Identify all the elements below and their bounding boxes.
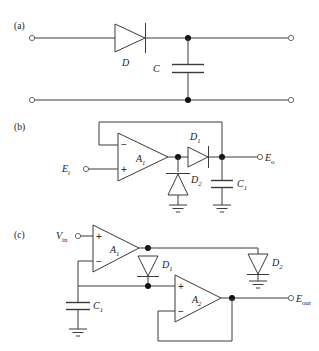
diode-D2[interactable] (166, 157, 190, 205)
panel-b-label: (b) (14, 122, 25, 133)
capacitor-C[interactable] (172, 38, 204, 100)
terminal-b-output[interactable] (257, 154, 262, 159)
opamp-c-A1-noninverting-sign: + (96, 231, 102, 242)
terminal-b-input-label: Ei (61, 163, 70, 176)
terminal-a-input-top[interactable] (29, 35, 34, 40)
node-a-bottom (185, 97, 191, 103)
terminal-c-output[interactable] (288, 295, 293, 300)
terminal-b-output-label: Eo (264, 152, 275, 165)
terminal-c-input[interactable] (75, 233, 80, 238)
diode-D2-body (168, 174, 188, 195)
diode-D2-label: D2 (190, 174, 202, 187)
opamp-c-A1-inverting-sign: − (96, 256, 102, 267)
diode-D2-c-body (248, 254, 268, 274)
wire-b-feedback (99, 122, 222, 158)
terminal-a-output-top[interactable] (288, 35, 293, 40)
wire-c-A1-inverting-feedback (78, 261, 93, 286)
ground-b-capacitor (213, 205, 231, 212)
opamp-A1-inverting-sign: − (121, 139, 127, 150)
capacitor-C-label: C (153, 63, 160, 74)
panel-c: (c) Vin + − A1 D1 (14, 225, 311, 341)
diode-D1-label: D1 (189, 131, 201, 144)
node-c-hold (145, 283, 151, 289)
diode-D1-body (188, 147, 208, 167)
terminal-c-input-label: Vin (56, 230, 68, 243)
diode-D1-c-body (138, 256, 158, 276)
opamp-A1-label: A1 (135, 153, 146, 166)
capacitor-C1-c-label: C1 (93, 300, 103, 313)
diode-D1[interactable] (188, 146, 209, 168)
opamp-A1-noninverting-sign: + (121, 164, 127, 175)
diode-D[interactable] (115, 23, 146, 53)
capacitor-C1-b[interactable] (211, 157, 233, 205)
panel-a-label: (a) (14, 21, 25, 32)
figure-canvas: (a) D C (b) (0, 0, 319, 351)
capacitor-C1-b-label: C1 (237, 178, 247, 191)
diode-D-label: D (121, 57, 130, 68)
circuit-diagram-svg: (a) D C (b) (0, 0, 319, 351)
terminal-a-output-bottom[interactable] (288, 97, 293, 102)
diode-D1-c[interactable] (137, 256, 159, 286)
opamp-c-A1-label: A1 (109, 244, 120, 257)
opamp-c-A2-noninverting-sign: + (178, 281, 184, 292)
ground-b-diode (169, 205, 187, 212)
panel-b: (b) − + A1 Ei D1 D2 (14, 122, 275, 212)
terminal-a-input-bottom[interactable] (29, 97, 34, 102)
opamp-c-A2-inverting-sign: − (178, 306, 184, 317)
terminal-c-output-label: Eout (295, 293, 311, 306)
opamp-c-A2-label: A2 (191, 294, 202, 307)
panel-c-label: (c) (14, 230, 25, 241)
diode-D-body (115, 24, 145, 52)
capacitor-C1-c[interactable] (66, 286, 90, 329)
ground-c-diode (249, 281, 267, 288)
terminal-b-input[interactable] (83, 166, 88, 171)
diode-D1-c-label: D1 (161, 259, 173, 272)
diode-D2-c[interactable] (247, 248, 269, 281)
panel-a: (a) D C (14, 21, 294, 103)
ground-c-capacitor (69, 329, 87, 336)
diode-D2-c-label: D2 (271, 257, 283, 270)
